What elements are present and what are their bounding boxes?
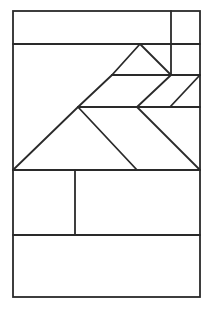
big-triangle-right — [78, 107, 137, 170]
upper-left-diagonal — [78, 75, 112, 107]
outer-rectangle — [13, 11, 200, 297]
right-diagonal — [137, 107, 200, 170]
parallelogram-diag-1 — [137, 75, 171, 107]
small-triangle-left — [112, 44, 140, 75]
big-triangle-left — [13, 107, 78, 170]
small-triangle-right — [140, 44, 171, 75]
parallelogram-diag-2 — [170, 75, 200, 107]
tangram-figure — [0, 0, 214, 320]
figure-segments — [13, 11, 200, 235]
